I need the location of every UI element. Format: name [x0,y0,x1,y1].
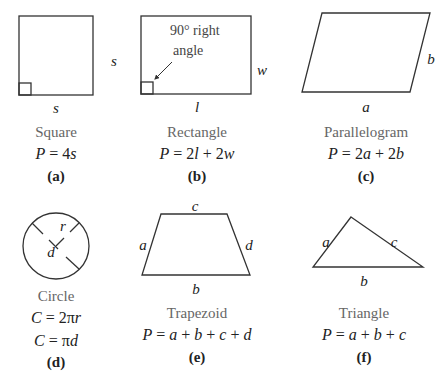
circle-diameter-label: d [47,245,55,260]
triangle-side-label-a: a [322,235,330,250]
right-angle-marker [19,83,31,95]
trapezoid-name: Trapezoid [167,306,227,321]
parallelogram-side-label-b: b [427,52,435,67]
rectangle-width-label: w [257,63,267,78]
square-tag: (a) [47,169,65,184]
triangle-name: Triangle [339,306,389,321]
annotation-arrow [155,62,172,79]
circle-name: Circle [38,289,75,304]
parallelogram-tag: (c) [358,169,375,184]
square-side-label-right: s [111,54,117,69]
triangle-side-label-b: b [360,274,368,289]
right-angle-marker [141,82,153,94]
parallelogram-formula: P = 2a + 2b [328,146,404,162]
trapezoid-bottom-label: b [192,282,200,297]
circle-tag: (d) [47,355,65,370]
right-angle-note-line2: angle [173,44,203,58]
trapezoid-top-label: c [192,199,199,214]
right-angle-note-line1: 90° right [170,24,220,38]
rectangle-length-label: l [195,100,199,115]
diameter-line-upper [32,223,43,234]
parallelogram-shape [302,13,430,92]
trapezoid-formula: P = a + b + c + d [142,327,251,343]
parallelogram-side-label-a: a [362,100,370,115]
circle-formula-diameter: C = πd [34,333,78,349]
trapezoid-tag: (e) [189,350,206,365]
square-name: Square [35,125,77,140]
triangle-side-label-c: c [391,235,398,250]
triangle-formula: P = a + b + c [322,327,406,343]
trapezoid-left-label: a [139,238,147,253]
radius-line-upper [70,223,79,232]
square-side-label-bottom: s [53,101,59,116]
radius-line-lower [56,238,64,246]
circle-radius-label: r [60,219,66,234]
square-formula: P = 4s [35,146,76,162]
trapezoid-right-label: d [245,238,253,253]
rectangle-name: Rectangle [167,125,227,140]
rectangle-formula: P = 2l + 2w [160,146,235,162]
triangle-tag: (f) [357,350,372,365]
diameter-line-lower [66,257,79,269]
trapezoid-shape [142,214,250,275]
parallelogram-name: Parallelogram [324,125,408,140]
circle-formula-radius: C = 2πr [31,310,81,326]
rectangle-tag: (b) [188,169,206,184]
